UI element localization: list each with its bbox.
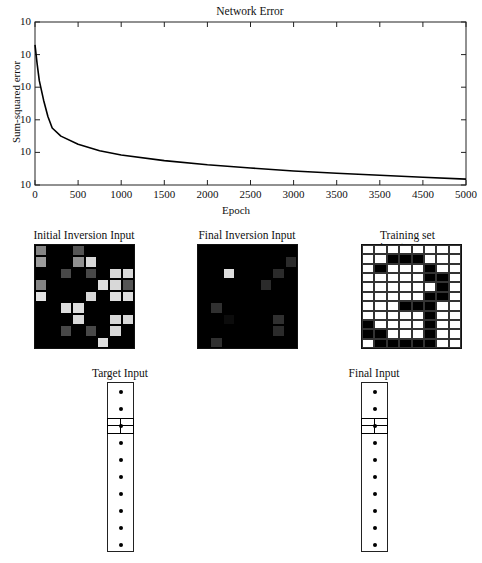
vector-element-dot <box>373 475 377 479</box>
chart-title: Network Error <box>0 5 482 17</box>
grid-cell <box>387 329 399 338</box>
grid-cell <box>260 291 272 302</box>
grid-cell <box>374 339 386 348</box>
grid-cell <box>109 325 121 336</box>
grid-cell <box>387 264 399 273</box>
grid-cell <box>198 256 210 267</box>
grid-cell <box>223 291 235 302</box>
grid-cell <box>362 329 374 338</box>
grid-cell <box>248 302 260 313</box>
grid-cell <box>436 339 448 348</box>
grid-cell <box>223 279 235 290</box>
grid-cell <box>374 245 386 254</box>
grid-cell <box>235 291 247 302</box>
grid-cell <box>272 268 284 279</box>
grid-cell <box>109 268 121 279</box>
grid-cell <box>109 245 121 256</box>
grid-cell <box>109 291 121 302</box>
vector-element-dot <box>119 475 123 479</box>
grid-cell <box>122 314 134 325</box>
grid-cell <box>35 245 47 256</box>
grid-cell <box>97 302 109 313</box>
grid-cell <box>374 264 386 273</box>
grid-cell <box>436 329 448 338</box>
grid-cell <box>374 254 386 263</box>
grid-cell <box>97 279 109 290</box>
grid-cell <box>436 320 448 329</box>
grid-cell <box>47 325 59 336</box>
grid-cell <box>412 301 424 310</box>
grid-cell <box>260 245 272 256</box>
grid-cell <box>35 302 47 313</box>
grid-cell <box>210 325 222 336</box>
grid-cell <box>272 302 284 313</box>
vector-element-dot <box>373 526 377 530</box>
grid-cell <box>97 291 109 302</box>
grid-cell <box>362 320 374 329</box>
grid-cell <box>235 314 247 325</box>
grid-cell <box>72 279 84 290</box>
grid-cell <box>235 325 247 336</box>
grid-cell <box>285 337 297 348</box>
grid-cell <box>362 339 374 348</box>
grid-cell <box>412 329 424 338</box>
vector-element-dot <box>119 509 123 513</box>
grid-cell <box>387 301 399 310</box>
grid-cell <box>424 329 436 338</box>
grid-cell <box>449 292 461 301</box>
grid-cell <box>248 314 260 325</box>
grid-cell <box>399 329 411 338</box>
grid-cell <box>235 268 247 279</box>
grid-cell <box>198 279 210 290</box>
grid-cell <box>362 264 374 273</box>
grid-cell <box>60 325 72 336</box>
x-tick-label: 1500 <box>153 188 175 200</box>
grid-cell <box>449 329 461 338</box>
grid-cell <box>272 325 284 336</box>
grid-cell <box>109 302 121 313</box>
network-error-chart <box>0 0 473 220</box>
grid-cell <box>412 320 424 329</box>
grid-cell <box>399 339 411 348</box>
grid-cell <box>235 302 247 313</box>
grid-cell <box>449 301 461 310</box>
x-axis-label: Epoch <box>222 204 250 216</box>
grid-cell <box>235 337 247 348</box>
grid-cell <box>198 325 210 336</box>
grid-cell <box>85 256 97 267</box>
grid-cell <box>387 282 399 291</box>
grid-cell <box>260 268 272 279</box>
grid-cell <box>285 314 297 325</box>
grid-cell <box>399 301 411 310</box>
initial-inversion-title: Initial Inversion Input <box>34 229 135 241</box>
grid-cell <box>85 314 97 325</box>
grid-cell <box>210 337 222 348</box>
grid-cell <box>72 337 84 348</box>
grid-cell <box>210 279 222 290</box>
grid-cell <box>272 245 284 256</box>
grid-cell <box>198 291 210 302</box>
grid-cell <box>424 301 436 310</box>
grid-cell <box>72 325 84 336</box>
vector-element-dot <box>373 458 377 462</box>
y-tick-label: 10 <box>20 48 31 60</box>
grid-cell <box>35 325 47 336</box>
grid-cell <box>285 268 297 279</box>
grid-cell <box>210 256 222 267</box>
grid-cell <box>198 268 210 279</box>
grid-cell <box>436 254 448 263</box>
final-input-title: Final Input <box>349 367 400 379</box>
grid-cell <box>72 314 84 325</box>
x-tick-label: 4500 <box>412 188 434 200</box>
vector-element-dot <box>119 407 123 411</box>
grid-cell <box>362 311 374 320</box>
grid-cell <box>198 302 210 313</box>
grid-cell <box>198 245 210 256</box>
grid-cell <box>449 273 461 282</box>
grid-cell <box>210 268 222 279</box>
grid-cell <box>85 268 97 279</box>
training-set-grid <box>361 244 462 349</box>
grid-cell <box>362 282 374 291</box>
grid-cell <box>449 245 461 254</box>
grid-cell <box>260 314 272 325</box>
